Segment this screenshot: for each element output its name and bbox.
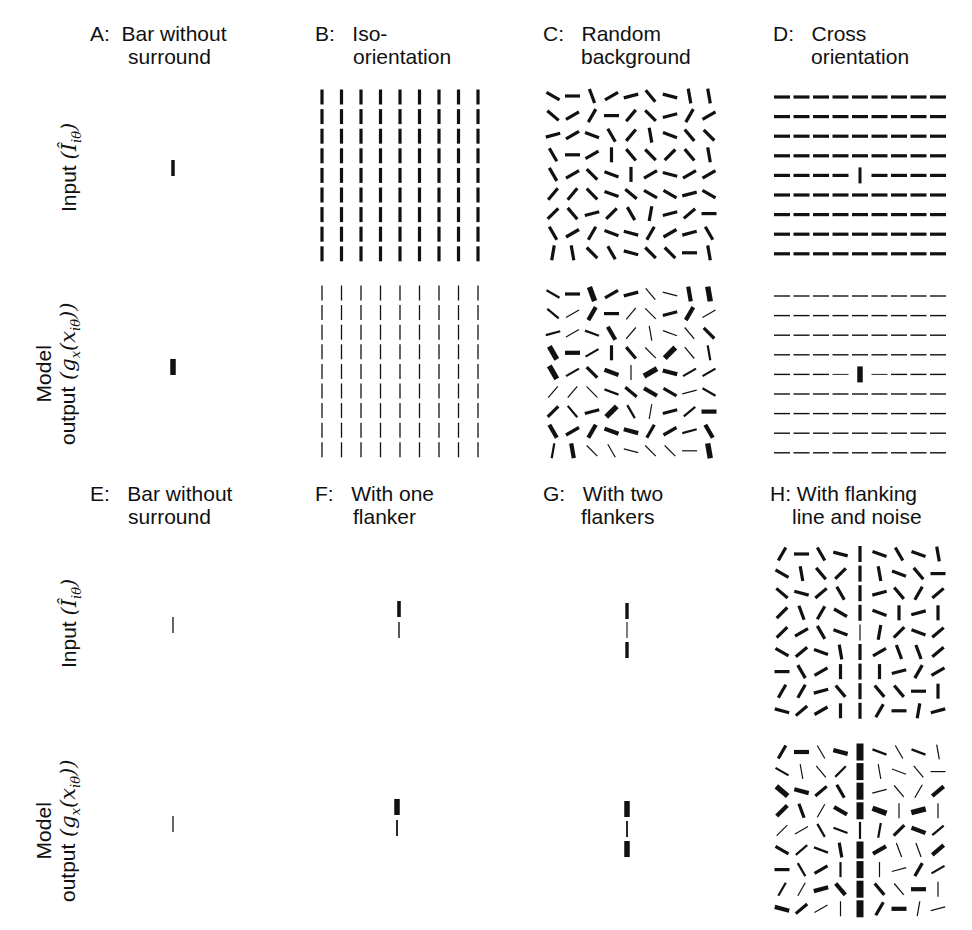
bar <box>834 630 848 635</box>
bar <box>815 588 826 598</box>
bar <box>686 307 694 320</box>
bar <box>872 789 886 793</box>
bar <box>588 227 596 240</box>
bar <box>586 151 599 159</box>
bar <box>817 548 825 561</box>
bar <box>587 446 598 457</box>
bar <box>546 133 560 137</box>
bar <box>800 764 803 779</box>
bar <box>839 843 842 858</box>
bar <box>605 290 618 298</box>
bar <box>776 768 789 776</box>
bar <box>915 665 923 678</box>
bar <box>815 786 826 796</box>
bar <box>912 749 926 754</box>
bar <box>665 150 676 161</box>
bar <box>605 389 619 394</box>
bar <box>817 824 825 837</box>
bar <box>798 883 806 896</box>
bar <box>892 571 906 576</box>
bar <box>549 148 557 161</box>
bar <box>777 627 788 638</box>
bar <box>914 766 924 777</box>
bar <box>589 287 594 301</box>
panel-c-input <box>546 89 717 261</box>
bar <box>549 168 557 181</box>
bar <box>873 808 887 813</box>
bar <box>663 133 677 138</box>
bar <box>626 110 636 121</box>
bar <box>894 588 904 599</box>
bar <box>645 446 656 457</box>
bar <box>895 548 903 561</box>
bar <box>817 606 825 619</box>
bar <box>705 425 713 438</box>
bar <box>703 112 716 120</box>
panel-f <box>397 601 399 836</box>
bar <box>646 90 656 101</box>
bar <box>778 883 786 896</box>
bar <box>932 826 943 836</box>
bar <box>835 568 846 579</box>
bar <box>775 907 789 911</box>
bar <box>589 89 594 103</box>
bar <box>663 173 677 177</box>
bar <box>708 443 711 458</box>
bar <box>815 905 828 913</box>
bar <box>644 190 657 198</box>
bar <box>608 327 616 340</box>
bar <box>912 551 926 556</box>
bar <box>645 348 656 359</box>
bar <box>912 828 926 833</box>
bar <box>548 386 558 397</box>
bar <box>912 630 926 635</box>
bar <box>775 709 789 713</box>
bar <box>683 171 696 179</box>
bar <box>649 206 652 221</box>
bar <box>588 307 596 320</box>
bar <box>587 248 598 259</box>
bar <box>549 425 557 438</box>
bar <box>776 846 789 854</box>
bar <box>894 884 904 895</box>
bar <box>799 606 804 620</box>
panel-d-input <box>774 97 946 254</box>
bar <box>566 230 579 238</box>
bar <box>896 843 901 857</box>
bar <box>876 902 884 915</box>
bar <box>649 128 652 143</box>
bar <box>547 92 560 100</box>
bar <box>606 406 617 417</box>
bar <box>708 345 711 360</box>
bar <box>647 227 655 240</box>
bar <box>878 823 881 838</box>
bar <box>644 171 657 179</box>
bar <box>795 827 808 835</box>
panel-b-output <box>322 286 478 458</box>
bar <box>605 429 619 434</box>
bar <box>645 308 656 319</box>
bar <box>587 169 598 180</box>
bar <box>608 129 616 142</box>
panel-c-output <box>546 287 717 459</box>
bar <box>796 706 807 716</box>
bar <box>817 626 825 639</box>
bar <box>915 863 923 876</box>
bar <box>624 429 638 433</box>
bar <box>894 825 905 836</box>
bar <box>704 130 715 141</box>
bar <box>704 328 715 339</box>
bar <box>878 764 881 779</box>
bar <box>626 347 636 358</box>
bar <box>605 370 619 375</box>
bar <box>814 689 828 693</box>
bar <box>566 171 579 179</box>
bar <box>568 406 578 417</box>
bar <box>549 346 557 359</box>
bar <box>649 326 652 341</box>
bar <box>896 645 901 659</box>
bar <box>608 444 616 457</box>
bar <box>834 609 847 617</box>
bar <box>624 231 638 235</box>
bar <box>833 750 847 754</box>
